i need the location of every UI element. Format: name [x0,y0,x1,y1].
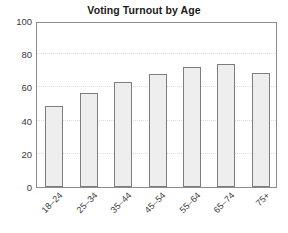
bar [114,82,132,187]
bar-chart: Voting Turnout by Age 020406080100 18–24… [0,0,288,233]
bar [183,67,201,187]
bar [217,64,235,187]
bar [80,93,98,187]
x-axis-tick-label: 65–74 [213,191,237,215]
bar [149,74,167,187]
x-axis-tick-label: 35–44 [109,191,133,215]
y-axis-tick-label: 80 [2,50,32,60]
x-axis-tick-label: 25–34 [75,191,99,215]
x-axis-tick-label: 55–64 [178,191,202,215]
gridline [37,53,276,54]
y-axis-tick-label: 0 [2,183,32,193]
plot-area [36,22,277,188]
bar [252,73,270,187]
x-axis-tick-label: 75+ [254,191,271,208]
x-axis-tick-label: 45–54 [144,191,168,215]
x-axis-tick-label: 18–24 [41,191,65,215]
y-axis-tick-label: 60 [2,84,32,94]
y-axis-tick-label: 100 [2,17,32,27]
chart-title: Voting Turnout by Age [0,4,288,16]
y-axis-tick-label: 40 [2,117,32,127]
y-axis-tick-label: 20 [2,150,32,160]
bar [45,106,63,187]
